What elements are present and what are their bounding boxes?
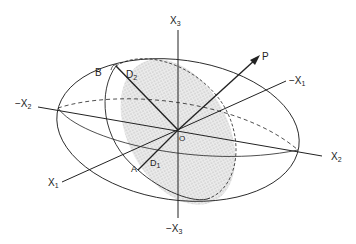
label-a: A — [131, 164, 137, 174]
label-x3-neg: −X3 — [166, 223, 183, 235]
ellipsoid-diagram: X3 −X3 −X2 X2 X1 −X1 P O B A D2 D1 — [0, 0, 356, 244]
label-origin: O — [179, 134, 185, 143]
label-p: P — [262, 51, 269, 62]
label-x3-pos: X3 — [170, 15, 181, 27]
label-x2-neg: −X2 — [15, 98, 32, 110]
label-b: B — [95, 67, 102, 78]
label-x1-pos: X1 — [48, 177, 59, 189]
label-x2-pos: X2 — [331, 151, 342, 163]
label-x1-neg: −X1 — [289, 75, 306, 87]
